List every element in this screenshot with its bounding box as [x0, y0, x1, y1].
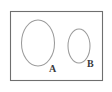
figure-container: A B [0, 0, 112, 92]
ellipse-a-label: A [49, 63, 57, 74]
region-diagram: A B [0, 0, 112, 92]
bounding-box-frame [11, 12, 103, 81]
ellipse-b-label: B [87, 58, 94, 69]
